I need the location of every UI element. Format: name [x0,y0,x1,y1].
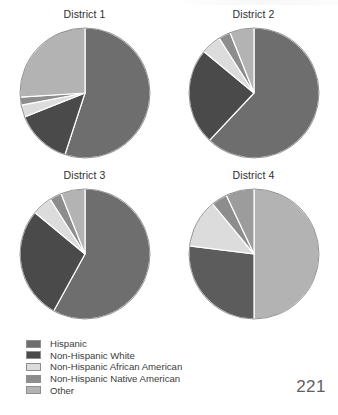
pie-slice [20,28,85,97]
legend-item: Non-Hispanic African American [26,361,276,373]
pie-district-4 [187,187,321,321]
pie-svg-district-1 [18,26,152,160]
legend: Hispanic Non-Hispanic White Non-Hispanic… [26,338,276,396]
chart-cell-district-4: District 4 [169,169,338,330]
legend-swatch-icon [26,351,41,359]
pie-svg-district-4 [187,187,321,321]
chart-title-district-4: District 4 [169,169,338,181]
legend-item: Non-Hispanic White [26,350,276,362]
pie-chart-grid: District 1 District 2 District 3 Distric… [0,8,338,330]
chart-title-district-3: District 3 [0,169,169,181]
pie-svg-district-2 [187,26,321,160]
page-number: 221 [296,377,326,397]
legend-swatch-icon [26,340,41,348]
pie-district-3 [18,187,152,321]
pie-district-2 [187,26,321,160]
legend-item: Hispanic [26,338,276,350]
chart-cell-district-2: District 2 [169,8,338,169]
pie-slice [254,189,319,319]
pie-svg-district-3 [18,187,152,321]
legend-item: Non-Hispanic Native American [26,373,276,385]
chart-cell-district-1: District 1 [0,8,169,169]
legend-item-label: Non-Hispanic African American [50,361,182,372]
figure-page: District 1 District 2 District 3 Distric… [0,0,338,415]
scan-artifact-band [182,0,338,5]
legend-item-label: Non-Hispanic Native American [50,373,180,384]
pie-district-1 [18,26,152,160]
pie-slice [189,246,254,319]
legend-item-label: Other [50,385,74,396]
chart-cell-district-3: District 3 [0,169,169,330]
chart-title-district-1: District 1 [0,8,169,20]
chart-title-district-2: District 2 [169,8,338,20]
legend-swatch-icon [26,363,41,371]
legend-item-label: Non-Hispanic White [50,350,135,361]
legend-item-label: Hispanic [50,338,87,349]
legend-swatch-icon [26,375,41,383]
legend-item: Other [26,384,276,396]
legend-swatch-icon [26,386,41,394]
